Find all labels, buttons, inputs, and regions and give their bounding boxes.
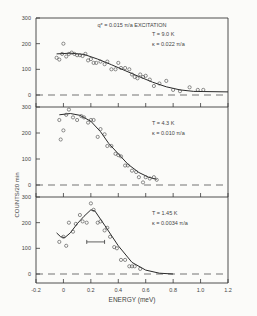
panel-title: q* = 0.015 π/a EXCITATION [98, 22, 167, 28]
x-tick-label: 0.6 [142, 287, 150, 293]
data-point [128, 68, 131, 71]
data-point [96, 135, 99, 138]
data-point [155, 178, 158, 181]
y-tick-label: 100 [22, 156, 31, 162]
data-point [89, 58, 92, 61]
data-point [103, 63, 106, 66]
y-tick-label: 300 [22, 15, 31, 21]
data-point [58, 118, 61, 121]
data-point [188, 86, 191, 89]
y-tick-label: 0 [28, 92, 31, 98]
data-point [76, 118, 79, 121]
y-tick-label: 100 [22, 66, 31, 72]
x-tick-label: -0.2 [31, 287, 40, 293]
data-point [71, 116, 74, 119]
y-tick-label: 300 [22, 194, 31, 200]
data-point [115, 247, 118, 250]
data-point [67, 108, 70, 111]
data-point [152, 84, 155, 87]
data-point [65, 55, 68, 58]
y-tick-label: 200 [22, 130, 31, 136]
panel-annotation: T = 1.45 K [152, 210, 178, 216]
data-point [99, 128, 102, 131]
x-tick-label: 0.4 [114, 287, 122, 293]
data-point [103, 133, 106, 136]
y-tick-label: 200 [22, 41, 31, 47]
data-point [89, 202, 92, 205]
data-point [71, 230, 74, 233]
data-point [202, 88, 205, 91]
data-point [62, 129, 65, 132]
y-tick-label: 0 [28, 182, 31, 188]
y-tick-label: 300 [22, 104, 31, 110]
data-point [58, 240, 61, 243]
y-tick-label: 100 [22, 245, 31, 251]
data-point [114, 68, 117, 71]
x-tick-label: 0.2 [87, 287, 95, 293]
data-point [165, 79, 168, 82]
data-point [106, 144, 109, 147]
data-point [137, 176, 140, 179]
fit-curve [57, 53, 228, 92]
panel-annotation: κ = 0.010 π/a [152, 130, 186, 136]
panel-annotation: T = 4.3 K [152, 120, 175, 126]
data-point [87, 121, 90, 124]
data-point [85, 221, 88, 224]
y-tick-label: 0 [28, 271, 31, 277]
x-tick-label: 0.8 [169, 287, 177, 293]
data-point [124, 66, 127, 69]
data-point [65, 244, 68, 247]
fit-curve [59, 114, 156, 180]
data-point [124, 258, 127, 261]
x-tick-label: 1.2 [224, 287, 232, 293]
data-point [141, 181, 144, 184]
data-point [59, 138, 62, 141]
data-point [81, 220, 84, 223]
panel-annotation: κ = 0.022 π/a [152, 41, 186, 47]
data-point [103, 229, 106, 232]
data-point [78, 213, 81, 216]
data-point [109, 235, 112, 238]
y-axis-label: COUNTS/20 min [14, 172, 20, 217]
data-point [139, 73, 142, 76]
data-point [58, 58, 61, 61]
y-tick-label: 200 [22, 220, 31, 226]
data-point [117, 61, 120, 64]
data-point [144, 74, 147, 77]
x-tick-label: 0 [62, 287, 65, 293]
data-point [136, 77, 139, 80]
data-point [139, 267, 142, 270]
x-axis-label: ENERGY (meV) [109, 296, 156, 304]
panel-annotation: T = 9.0 K [152, 31, 175, 37]
x-tick-label: 1.0 [197, 287, 205, 293]
chart-figure: 0100200300T = 9.0 Kκ = 0.022 π/a01002003… [0, 0, 257, 316]
data-point [119, 258, 122, 261]
panel-annotation: κ = 0.0034 π/a [152, 220, 189, 226]
data-point [67, 221, 70, 224]
data-point [62, 42, 65, 45]
data-point [130, 169, 133, 172]
data-point [110, 68, 113, 71]
